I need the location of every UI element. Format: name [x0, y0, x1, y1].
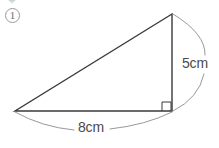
dimension-arc-8cm-left — [15, 112, 74, 130]
dimension-arc-8cm-right — [110, 112, 172, 129]
triangle-diagram — [0, 0, 219, 148]
figure-container: 1 5cm 8cm — [0, 0, 219, 148]
dimension-label-5cm: 5cm — [182, 56, 208, 70]
dimension-arc-5cm-lower — [173, 74, 204, 111]
right-angle-marker-icon — [162, 102, 171, 111]
triangle-outline — [15, 14, 172, 111]
dimension-arc-5cm-upper — [173, 14, 205, 55]
dimension-label-8cm: 8cm — [78, 120, 104, 134]
